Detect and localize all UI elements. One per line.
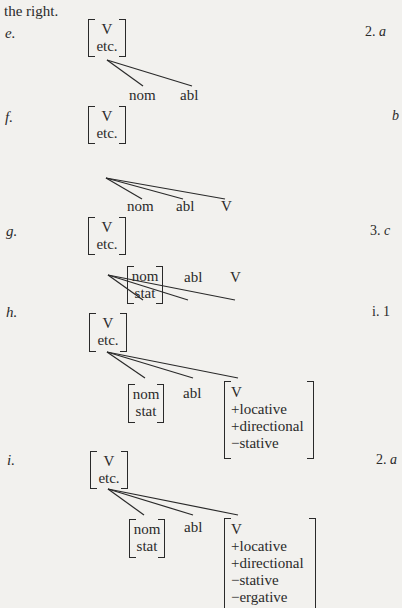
root-feature-bracket: Vetc. [88,19,126,57]
ref-number: 3. c [370,223,390,239]
root-feature-bracket: Vetc. [88,106,126,144]
example-label: i. [7,452,15,469]
root-feature-bracket: Vetc. [88,217,126,255]
example-label: h. [6,304,17,321]
child-node: abl [184,268,202,286]
child-node: abl [183,384,201,402]
example-label: e. [5,25,15,42]
child-node: V [221,197,232,215]
ref-number: b [392,108,399,124]
child-node: V [230,268,241,286]
root-feature-bracket: Vetc. [89,313,127,352]
child-feature-bracket: nomstat [127,266,163,304]
example-label: g. [6,223,17,240]
ref-number: 2. a [365,24,386,40]
child-feature-bracket: nomstat [129,519,165,558]
child-node: abl [176,197,194,215]
example-label: f. [5,109,13,126]
child-node: abl [180,86,198,104]
ref-number: i. 1 [372,304,390,320]
child-feature-bracket: V +locative +directional −stative [224,381,314,459]
child-node: nom [129,86,156,104]
child-node: nom [127,197,154,215]
child-feature-bracket: nomstat [128,384,164,423]
ref-number: 2. a [376,452,397,468]
root-feature-bracket: Vetc. [90,451,128,489]
child-node: abl [184,518,202,536]
child-feature-bracket: V +locative +directional −stative −ergat… [224,518,316,608]
